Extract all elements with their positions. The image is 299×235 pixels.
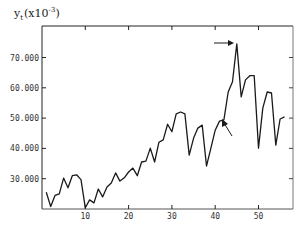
y-tick-label: 50.000	[10, 114, 39, 123]
x-tick-label: 50	[254, 212, 264, 221]
data-series-line	[46, 44, 284, 208]
shift-arrow-icon	[222, 119, 232, 136]
y-tick-label: 70.000	[10, 54, 39, 63]
plot-frame	[42, 26, 293, 209]
y-axis-label: yt(x10-3)	[13, 6, 60, 22]
x-tick-label: 30	[167, 212, 177, 221]
y-tick-label: 60.000	[10, 84, 39, 93]
x-tick-label: 10	[80, 212, 90, 221]
x-tick-label: 40	[210, 212, 220, 221]
y-tick-label: 30.000	[10, 175, 39, 184]
time-series-chart: yt(x10-3) 1020304050 30.00040.00050.0006…	[0, 0, 299, 235]
peak-arrow-icon	[214, 40, 234, 46]
annotations	[214, 40, 234, 136]
x-tick-label: 20	[124, 212, 134, 221]
y-ticks: 30.00040.00050.00060.00070.000	[10, 54, 293, 184]
y-tick-label: 40.000	[10, 144, 39, 153]
